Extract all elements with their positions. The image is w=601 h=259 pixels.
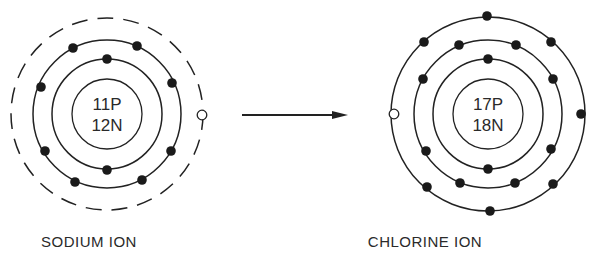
electron-shell-3 — [11, 18, 203, 210]
chlorine-protons: 17P — [473, 95, 503, 114]
electron — [454, 40, 464, 50]
electron — [546, 144, 556, 154]
electron — [102, 54, 112, 64]
nucleus — [453, 79, 523, 149]
sodium-protons: 11P — [93, 95, 122, 114]
electron — [36, 82, 46, 92]
electron — [510, 178, 520, 188]
electron-vacancy — [389, 109, 399, 119]
electron — [421, 146, 431, 156]
electron — [482, 11, 492, 21]
electron — [419, 37, 429, 47]
electron — [485, 206, 495, 216]
electron — [166, 146, 176, 156]
arrow-head-icon — [332, 111, 348, 119]
electron — [137, 175, 147, 185]
sodium-neutrons: 12N — [91, 116, 122, 135]
sodium-ion — [11, 18, 207, 210]
electron — [102, 165, 112, 175]
electron-shell-1 — [52, 59, 162, 169]
electron — [576, 109, 586, 119]
electron — [422, 182, 432, 192]
electron-vacancy — [197, 110, 207, 120]
electron — [132, 41, 142, 51]
transfer-arrow — [242, 111, 348, 119]
ionic-bond-diagram: 11P 12N 17P 18N SODIUM ION CHLORINE ION — [0, 0, 601, 259]
electron-shell-1 — [433, 59, 543, 169]
electron — [40, 146, 50, 156]
electron — [70, 177, 80, 187]
electron — [455, 178, 465, 188]
electron — [68, 43, 78, 53]
sodium-caption: SODIUM ION — [41, 233, 137, 250]
diagram-canvas: 11P 12N 17P 18N SODIUM ION CHLORINE ION — [0, 0, 601, 259]
electron — [548, 74, 558, 84]
electron — [511, 40, 521, 50]
electron — [548, 179, 558, 189]
electron — [483, 164, 493, 174]
electron — [418, 74, 428, 84]
chlorine-caption: CHLORINE ION — [368, 233, 482, 250]
electron — [546, 37, 556, 47]
electron — [167, 78, 177, 88]
electron — [483, 54, 493, 64]
chlorine-neutrons: 18N — [472, 116, 503, 135]
nucleus — [72, 79, 142, 149]
